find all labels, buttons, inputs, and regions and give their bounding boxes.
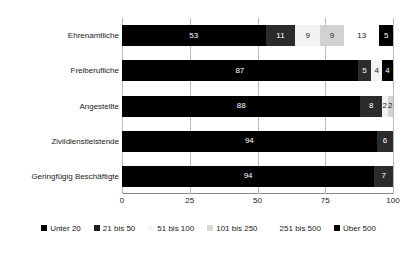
legend-item-4[interactable]: 251 bis 500 [271, 224, 321, 233]
bar-segment: 2 [388, 96, 393, 117]
bar-value-label: 4 [385, 67, 389, 75]
bar-segment: 6 [377, 131, 393, 152]
legend-item-3[interactable]: 101 bis 250 [207, 224, 257, 233]
bar-segment: 9 [295, 25, 319, 46]
bar-value-label: 11 [276, 32, 284, 40]
y-axis-label-3: Zivildienstleistende [7, 137, 119, 146]
legend-label: Unter 20 [50, 224, 81, 233]
bar-segment: 13 [344, 25, 379, 46]
bar-segment: 4 [382, 60, 393, 81]
bar-row: 531199135 [122, 25, 393, 46]
y-axis-label-4: Geringfügig Beschäftigte [7, 172, 119, 181]
bar-segment: 5 [379, 25, 393, 46]
bar-segment: 94 [122, 131, 377, 152]
legend-label: 21 bis 50 [103, 224, 135, 233]
legend-item-5[interactable]: Über 500 [334, 224, 376, 233]
y-axis-label-2: Angestellte [7, 102, 119, 111]
bar-value-label: 4 [375, 67, 379, 75]
stacked-bar: 946 [122, 131, 393, 152]
legend-label: 251 bis 500 [280, 224, 321, 233]
bar-value-label: 6 [383, 137, 387, 145]
bar-segment: 5 [358, 60, 372, 81]
bar-segment: 8 [360, 96, 382, 117]
stacked-bar: 88822 [122, 96, 393, 117]
legend-item-0[interactable]: Unter 20 [41, 224, 81, 233]
bar-segment: 11 [266, 25, 296, 46]
x-tick-label-0: 0 [120, 196, 124, 205]
legend-label: 101 bis 250 [216, 224, 257, 233]
stacked-bar: 947 [122, 166, 393, 187]
bar-value-label: 87 [235, 67, 244, 75]
legend-swatch-51-bis-100-icon [148, 225, 154, 231]
bar-value-label: 9 [330, 32, 334, 40]
bar-segment: 9 [320, 25, 344, 46]
bar-row: 946 [122, 131, 393, 152]
x-tick-label-25: 25 [185, 196, 194, 205]
bar-segment: 88 [122, 96, 360, 117]
y-axis-label-1: Freiberufliche [7, 66, 119, 75]
bar-row: 947 [122, 166, 393, 187]
legend-item-2[interactable]: 51 bis 100 [148, 224, 194, 233]
legend-swatch-ueber-500-icon [334, 225, 340, 231]
stacked-bar: 87544 [122, 60, 393, 81]
stacked-bar-chart: EhrenamtlicheFreiberuflicheAngestellteZi… [0, 0, 417, 253]
plot-area: 5311991358754488822946947 [122, 18, 393, 194]
bar-row: 87544 [122, 60, 393, 81]
x-tick-label-75: 75 [321, 196, 330, 205]
legend-swatch-unter-20-icon [41, 225, 47, 231]
bar-value-label: 5 [384, 32, 388, 40]
bar-value-label: 9 [305, 32, 309, 40]
bar-value-label: 5 [362, 67, 366, 75]
y-axis-label-0: Ehrenamtliche [7, 31, 119, 40]
chart-legend: Unter 2021 bis 5051 bis 100101 bis 25025… [0, 219, 417, 237]
stacked-bar: 531199135 [122, 25, 393, 46]
y-axis-category-labels: EhrenamtlicheFreiberuflicheAngestellteZi… [4, 18, 119, 194]
gridline-100 [393, 18, 394, 194]
legend-swatch-101-bis-250-icon [207, 225, 213, 231]
bar-value-label: 7 [381, 172, 385, 180]
bar-value-label: 8 [369, 102, 373, 110]
legend-label: Über 500 [343, 224, 376, 233]
bar-segment: 4 [371, 60, 382, 81]
bar-value-label: 88 [237, 102, 246, 110]
legend-swatch-21-bis-50-icon [94, 225, 100, 231]
bar-value-label: 13 [357, 32, 366, 40]
bar-value-label: 2 [383, 102, 387, 110]
bar-row: 88822 [122, 96, 393, 117]
bar-segment: 87 [122, 60, 358, 81]
bar-value-label: 94 [245, 137, 254, 145]
bar-value-label: 94 [244, 172, 253, 180]
bar-value-label: 53 [189, 32, 198, 40]
bar-segment: 94 [122, 166, 374, 187]
legend-swatch-251-bis-500-icon [271, 225, 277, 231]
bar-segment: 7 [374, 166, 393, 187]
x-tick-label-50: 50 [253, 196, 262, 205]
legend-item-1[interactable]: 21 bis 50 [94, 224, 135, 233]
bar-segment: 53 [122, 25, 266, 46]
x-axis-tick-labels: 0255075100 [122, 196, 393, 210]
x-tick-label-100: 100 [386, 196, 399, 205]
legend-label: 51 bis 100 [157, 224, 194, 233]
bar-value-label: 2 [388, 102, 392, 110]
